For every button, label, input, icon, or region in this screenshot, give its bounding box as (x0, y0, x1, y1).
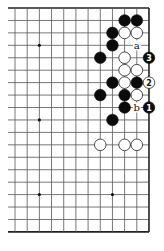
white-stone-icon (131, 89, 143, 101)
white-stone (119, 52, 131, 64)
black-stone (107, 77, 119, 89)
black-stone (94, 52, 106, 64)
black-stone-icon (94, 52, 106, 64)
black-stone (119, 102, 131, 114)
white-stone (131, 27, 143, 39)
board-grid (8, 8, 149, 232)
white-stone (119, 64, 131, 76)
black-stone (94, 89, 106, 101)
white-stone (131, 89, 143, 101)
move-number: 1 (146, 104, 152, 113)
white-stone-move-2: 2 (143, 77, 155, 89)
black-stone (131, 77, 143, 89)
point-label-b: b (134, 102, 140, 113)
white-stone-icon (131, 64, 143, 76)
white-stone-icon (119, 27, 131, 39)
star-point (111, 193, 114, 196)
black-stone-icon (107, 40, 119, 52)
black-stone-icon (119, 89, 131, 101)
black-stone-icon (131, 15, 143, 27)
black-stone (107, 40, 119, 52)
black-stone-icon (107, 77, 119, 89)
black-stone-icon (119, 102, 131, 114)
black-stone (107, 27, 119, 39)
black-stone (107, 114, 119, 126)
white-stone (131, 64, 143, 76)
white-stone (131, 139, 143, 151)
white-stone-icon (131, 139, 143, 151)
move-number: 3 (146, 54, 152, 63)
white-stone-icon (119, 52, 131, 64)
white-stone (119, 139, 131, 151)
black-stone-icon (107, 27, 119, 39)
black-stone-icon (94, 89, 106, 101)
white-stone-icon (119, 64, 131, 76)
star-point (38, 193, 41, 196)
white-stone-icon (119, 139, 131, 151)
white-stone (119, 27, 131, 39)
black-stone (131, 15, 143, 27)
white-stone-icon (131, 27, 143, 39)
star-point (38, 44, 41, 47)
star-point (38, 118, 41, 121)
black-stone-icon (131, 77, 143, 89)
move-number: 2 (146, 79, 152, 88)
point-label-a: a (134, 40, 140, 51)
white-stone-icon (119, 77, 131, 89)
black-stone (119, 89, 131, 101)
black-stone (119, 15, 131, 27)
black-stone-icon (107, 114, 119, 126)
black-stone-move-3: 3 (143, 52, 155, 64)
go-board-diagram: ab 321 (0, 0, 164, 251)
white-stone-icon (94, 139, 106, 151)
white-stone (119, 77, 131, 89)
black-stone-move-1: 1 (143, 102, 155, 114)
white-stone (94, 139, 106, 151)
black-stone-icon (119, 15, 131, 27)
